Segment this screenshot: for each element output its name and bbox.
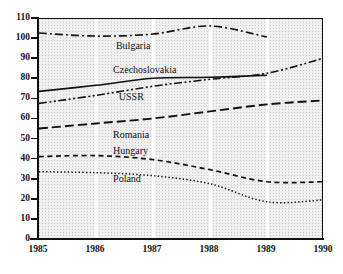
y-tick-label-60: 60 — [0, 113, 30, 122]
y-tick-label-110: 110 — [0, 13, 30, 22]
y-tick-mark-90 — [31, 57, 38, 59]
y-tick-mark-0 — [31, 238, 38, 240]
y-tick-label-40: 40 — [0, 154, 30, 163]
y-tick-label-100: 100 — [0, 33, 30, 42]
series-label-romania: Romania — [113, 129, 149, 140]
x-axis — [30, 238, 324, 240]
series-line-hungary — [39, 156, 323, 183]
series-label-czechoslovakia: Czechoslovakia — [113, 64, 176, 75]
y-tick-label-10: 10 — [0, 214, 30, 223]
gridline-1990 — [323, 19, 324, 238]
y-tick-label-80: 80 — [0, 73, 30, 82]
x-tick-label-1986: 1986 — [75, 244, 115, 254]
y-tick-label-20: 20 — [0, 194, 30, 203]
y-tick-mark-70 — [31, 98, 38, 100]
y-tick-mark-50 — [31, 138, 38, 140]
series-line-bulgaria — [39, 26, 267, 37]
y-tick-label-70: 70 — [0, 93, 30, 102]
y-tick-label-50: 50 — [0, 134, 30, 143]
x-tick-label-1989: 1989 — [246, 244, 286, 254]
y-tick-mark-60 — [31, 118, 38, 120]
y-tick-mark-80 — [31, 77, 38, 79]
x-tick-label-1990: 1990 — [303, 244, 343, 254]
y-tick-mark-30 — [31, 178, 38, 180]
series-line-poland — [39, 172, 323, 203]
series-line-romania — [39, 100, 323, 128]
y-tick-mark-20 — [31, 198, 38, 200]
plot-area: BulgariaCzechoslovakiaUSSRRomaniaHungary… — [38, 18, 323, 239]
y-tick-mark-40 — [31, 158, 38, 160]
x-tick-label-1985: 1985 — [18, 244, 58, 254]
series-line-ussr — [39, 58, 323, 103]
series-label-bulgaria: Bulgaria — [116, 40, 150, 51]
y-tick-label-0: 0 — [0, 234, 30, 243]
x-tick-label-1987: 1987 — [132, 244, 172, 254]
y-tick-mark-100 — [31, 37, 38, 39]
y-tick-label-30: 30 — [0, 174, 30, 183]
series-lines — [39, 19, 323, 239]
y-tick-mark-110 — [31, 17, 38, 19]
series-label-ussr: USSR — [119, 91, 144, 102]
series-label-hungary: Hungary — [113, 145, 148, 156]
series-label-poland: Poland — [113, 173, 141, 184]
y-tick-mark-10 — [31, 218, 38, 220]
y-axis — [37, 17, 39, 240]
y-tick-label-90: 90 — [0, 53, 30, 62]
line-chart: BulgariaCzechoslovakiaUSSRRomaniaHungary… — [0, 0, 343, 274]
x-tick-label-1988: 1988 — [189, 244, 229, 254]
